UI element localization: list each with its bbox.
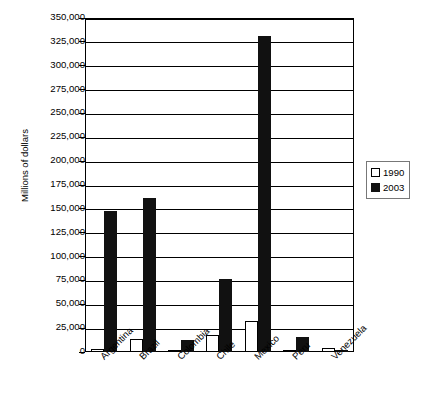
y-tick-label: 275,000 (25, 84, 85, 94)
bar-group (277, 18, 315, 352)
y-tick-label: 0 (25, 346, 85, 356)
y-tick-label: 325,000 (25, 36, 85, 46)
y-tick-label: 350,000 (25, 12, 85, 22)
y-tick-label: 150,000 (25, 203, 85, 213)
y-tick-label: 25,000 (25, 322, 85, 332)
bar-mexico-1990 (245, 321, 258, 352)
legend-item-1990[interactable]: 1990 (371, 166, 404, 179)
y-tick-label: 75,000 (25, 274, 85, 284)
bar-group (239, 18, 277, 352)
y-tick-label: 50,000 (25, 298, 85, 308)
y-tick-label: 175,000 (25, 179, 85, 189)
bar-group (162, 18, 200, 352)
legend-label: 2003 (383, 183, 404, 193)
bar-group (85, 18, 123, 352)
bar-brazil-2003 (143, 198, 156, 352)
bar-mexico-2003 (258, 36, 271, 352)
legend-swatch-icon (371, 183, 380, 192)
bar-chart: Millions of dollars 350,000325,000300,00… (0, 0, 434, 417)
bar-group (123, 18, 161, 352)
legend-label: 1990 (383, 168, 404, 178)
y-tick-label: 225,000 (25, 131, 85, 141)
y-tick-label: 300,000 (25, 60, 85, 70)
y-tick-label: 100,000 (25, 251, 85, 261)
x-axis-labels: ArgentinaBrazilColombiaChileMexicoPeruVe… (85, 354, 354, 414)
y-tick-label: 250,000 (25, 107, 85, 117)
bar-group (316, 18, 354, 352)
bars-layer (85, 18, 354, 352)
y-tick-label: 125,000 (25, 227, 85, 237)
bar-argentina-2003 (104, 211, 117, 352)
legend-item-2003[interactable]: 2003 (371, 181, 404, 194)
legend: 19902003 (366, 161, 410, 199)
y-tick-label: 200,000 (25, 155, 85, 165)
bar-group (200, 18, 238, 352)
legend-swatch-icon (371, 168, 380, 177)
